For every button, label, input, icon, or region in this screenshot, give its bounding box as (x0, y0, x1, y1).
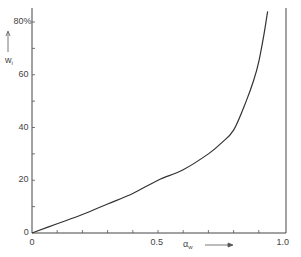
y-tick-label: 60 (19, 69, 29, 79)
x-tick-label: 0.5 (151, 237, 164, 247)
y-tick-label: 80% (13, 16, 31, 26)
x-tick-label: 0 (30, 237, 35, 247)
y-axis-label-sub: i (12, 60, 13, 66)
chart-plot (0, 0, 301, 257)
y-axis-arrow-icon (6, 31, 10, 52)
x-axis-arrow-icon (205, 243, 233, 247)
data-curve (32, 11, 268, 233)
x-axis-label-sub: w (188, 244, 192, 250)
y-tick-label: 40 (19, 122, 29, 132)
chart-axes (32, 8, 286, 233)
x-tick-label: 1.0 (277, 237, 290, 247)
x-axis-label: αw (183, 239, 193, 250)
y-axis-label: wi (5, 55, 13, 66)
y-tick-label: 0 (24, 227, 29, 237)
y-tick-label: 20 (19, 174, 29, 184)
